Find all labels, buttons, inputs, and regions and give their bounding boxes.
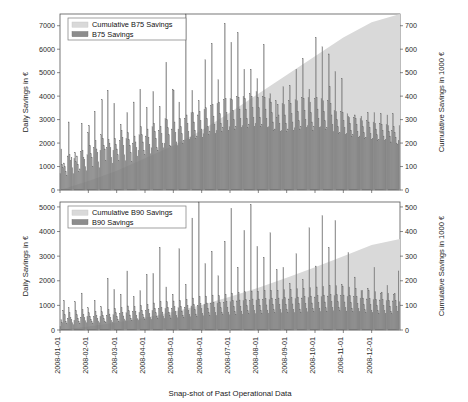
bar	[305, 303, 306, 330]
bar	[173, 90, 174, 190]
bar	[124, 155, 125, 190]
bar	[263, 45, 264, 190]
bar	[84, 318, 85, 330]
bar	[351, 302, 352, 330]
bar	[292, 304, 293, 330]
bar	[356, 297, 357, 330]
bar	[88, 133, 89, 190]
bar	[119, 141, 120, 190]
bar	[345, 135, 346, 190]
bar	[397, 312, 398, 330]
ytick-label-right: 500	[405, 203, 417, 212]
bar	[130, 145, 131, 190]
bar	[384, 311, 385, 330]
bar	[117, 149, 118, 190]
bar	[204, 109, 205, 190]
bar	[147, 304, 148, 330]
bar	[310, 288, 311, 330]
bar	[110, 317, 111, 330]
bar	[146, 275, 147, 330]
bar	[224, 241, 225, 330]
bar	[315, 37, 316, 190]
bar	[383, 306, 384, 330]
bar	[220, 114, 221, 190]
bar	[332, 308, 333, 330]
bar	[117, 316, 118, 330]
bar	[370, 134, 371, 190]
bar	[321, 98, 322, 190]
bar	[179, 249, 180, 330]
bar	[234, 120, 235, 190]
bar	[331, 115, 332, 190]
bar	[351, 130, 352, 190]
bar	[320, 127, 321, 190]
ytick-label-left: 0	[51, 186, 55, 195]
bar	[140, 291, 141, 330]
bar	[352, 308, 353, 330]
bar	[154, 123, 155, 190]
bar	[217, 103, 218, 190]
bar	[285, 115, 286, 190]
bar	[383, 136, 384, 190]
bar	[237, 301, 238, 330]
bar	[190, 137, 191, 190]
bar	[190, 317, 191, 330]
bar	[97, 318, 98, 330]
bar	[289, 299, 290, 330]
bar	[231, 42, 232, 190]
bar	[171, 129, 172, 190]
bar	[191, 306, 192, 330]
bar	[314, 127, 315, 190]
bar	[181, 306, 182, 330]
bar	[295, 100, 296, 190]
bar	[130, 315, 131, 330]
bar	[339, 134, 340, 190]
bar	[200, 303, 201, 330]
bar	[129, 311, 130, 330]
bar	[368, 291, 369, 330]
bar	[316, 97, 317, 190]
bar	[396, 143, 397, 190]
bar	[139, 135, 140, 190]
ytick-label-left: 6000	[39, 45, 55, 54]
bar	[128, 133, 129, 190]
bar	[326, 308, 327, 330]
bar	[155, 131, 156, 190]
bar	[286, 123, 287, 190]
bar	[315, 98, 316, 190]
bar	[233, 300, 234, 330]
bar	[266, 118, 267, 190]
bar	[210, 303, 211, 330]
legend-swatch-cumulative	[72, 22, 88, 27]
bar	[393, 301, 394, 330]
bar	[381, 292, 382, 330]
bar	[315, 266, 316, 330]
bar	[301, 312, 302, 330]
bar	[239, 109, 240, 190]
bar	[114, 103, 115, 190]
bar	[386, 124, 387, 190]
bar	[241, 311, 242, 330]
bar	[159, 107, 160, 190]
bar	[90, 145, 91, 190]
bar	[176, 315, 177, 330]
bar	[290, 289, 291, 330]
bar	[334, 296, 335, 330]
bar	[71, 319, 72, 330]
bar	[263, 257, 264, 330]
bar	[338, 127, 339, 190]
bar	[308, 97, 309, 190]
bar	[301, 127, 302, 190]
bar	[251, 291, 252, 330]
bar	[77, 156, 78, 190]
bar	[313, 309, 314, 330]
bar	[144, 150, 145, 190]
bar	[111, 320, 112, 330]
bar	[105, 149, 106, 190]
bar	[304, 110, 305, 190]
bar	[80, 169, 81, 190]
bar	[165, 308, 166, 330]
bar	[219, 296, 220, 330]
bar	[76, 310, 77, 330]
bar	[132, 143, 133, 190]
